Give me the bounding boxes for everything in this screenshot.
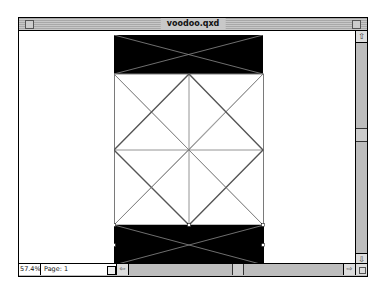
window-title: voodoo.qxd (161, 18, 226, 30)
vertical-scroll-thumb[interactable] (356, 128, 367, 142)
close-box-icon[interactable] (25, 20, 34, 29)
page-number-field[interactable]: Page: 1 (41, 264, 117, 275)
middle-grid[interactable] (114, 74, 264, 225)
page-layout (114, 35, 265, 265)
vertical-scrollbar[interactable]: ⇧ ⇩ (355, 31, 367, 265)
zoom-box-icon[interactable] (352, 20, 361, 29)
resize-grow-box-icon[interactable] (355, 264, 367, 275)
title-bar[interactable]: voodoo.qxd (19, 18, 367, 31)
document-canvas[interactable] (19, 31, 356, 265)
document-page (114, 35, 265, 265)
bottom-picture-box[interactable] (114, 224, 265, 266)
zoom-level-field[interactable]: 57.4% (19, 264, 41, 275)
scroll-left-arrow-icon[interactable]: ⇦ (117, 264, 129, 275)
scroll-right-arrow-icon[interactable]: ⇨ (343, 264, 355, 275)
bottom-bar: 57.4% Page: 1 ⇦ ⇨ (19, 263, 367, 276)
page-popup-icon[interactable] (107, 266, 116, 275)
scroll-up-arrow-icon[interactable]: ⇧ (356, 31, 367, 43)
top-picture-box[interactable] (114, 35, 263, 74)
horizontal-scroll-thumb[interactable] (232, 264, 244, 275)
document-window: voodoo.qxd (18, 17, 368, 277)
